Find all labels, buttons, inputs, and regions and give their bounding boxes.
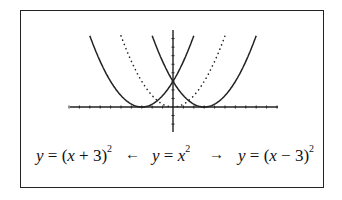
equation-base: y = x2 bbox=[152, 145, 190, 166]
right-arrow-icon: → bbox=[209, 146, 224, 163]
curve-left-shift bbox=[90, 36, 194, 107]
curve-right-shift bbox=[152, 36, 256, 107]
equation-right-shift: y = (x − 3)2 bbox=[238, 145, 314, 166]
equation-caption: y = (x + 3)2 ← y = x2 → y = (x − 3)2 bbox=[20, 141, 324, 171]
left-arrow-icon: ← bbox=[125, 146, 140, 163]
equation-left-shift: y = (x + 3)2 bbox=[36, 145, 112, 166]
